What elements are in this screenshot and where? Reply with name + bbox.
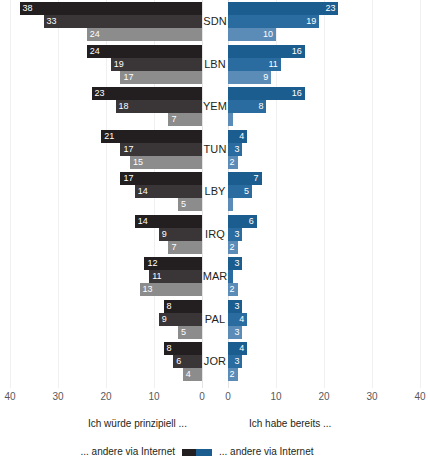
bar-row: 123: [0, 257, 430, 270]
bar-row: 84: [0, 342, 430, 355]
legend-label-right: ... andere via Internet: [219, 446, 314, 458]
bar-value-label: 23: [325, 2, 335, 15]
bar-left: 4: [183, 368, 202, 381]
bar-row: 83: [0, 300, 430, 313]
legend-heading-right: Ich habe bereits ...: [249, 418, 331, 429]
bar-right: 5: [228, 185, 252, 198]
bar-row: 63JOR: [0, 355, 430, 368]
bar-right: 1: [228, 270, 233, 283]
bar-value-label: 16: [292, 45, 302, 58]
bar-value-label: 7: [171, 241, 176, 254]
bar-left: 19: [111, 58, 202, 71]
bar-value-label: 12: [147, 257, 157, 270]
bar-row: 145LBY: [0, 185, 430, 198]
bar-value-label: 2: [230, 156, 235, 169]
country-label-pal: PAL: [202, 313, 228, 326]
bar-value-label: 4: [239, 313, 244, 326]
bar-row: 3823: [0, 2, 430, 15]
bar-right: 3: [228, 355, 242, 368]
bar-value-label: 17: [123, 71, 133, 84]
bar-right: 9: [228, 71, 271, 84]
bar-right: 11: [228, 58, 281, 71]
country-label-yem: YEM: [202, 100, 228, 113]
axis-tick-label: 10: [270, 390, 281, 404]
bar-value-label: 9: [263, 71, 268, 84]
bar-left: 14: [135, 215, 202, 228]
plot-area: 38233319SDN241024161911LBN1792316188YEM7…: [0, 0, 430, 388]
bar-value-label: 2: [230, 368, 235, 381]
bar-value-label: 6: [176, 355, 181, 368]
bar-left: 33: [44, 15, 202, 28]
bar-value-label: 9: [162, 228, 167, 241]
bar-row: 214: [0, 130, 430, 143]
bar-left: 17: [120, 71, 202, 84]
axis-tick-label: 30: [52, 390, 63, 404]
axis-tick-label: 0: [199, 390, 205, 404]
bar-value-label: 17: [123, 172, 133, 185]
bar-left: 9: [159, 313, 202, 326]
bar-right: 3: [228, 257, 242, 270]
bar-left: 13: [140, 283, 202, 296]
bar-value-label: 24: [90, 45, 100, 58]
bar-right: 6: [228, 215, 257, 228]
bar-right: 2: [228, 241, 238, 254]
x-axis: 403020100010203040: [0, 390, 430, 406]
bar-value-label: 5: [181, 326, 186, 339]
bar-value-label: 19: [306, 15, 316, 28]
bar-row: 2416: [0, 45, 430, 58]
bar-left: 18: [116, 100, 202, 113]
bar-value-label: 7: [254, 172, 259, 185]
country-group: 24161911LBN179: [0, 45, 430, 84]
country-label-sdn: SDN: [202, 15, 228, 28]
bar-right: 8: [228, 100, 266, 113]
bar-right: 16: [228, 45, 305, 58]
bar-value-label: 38: [23, 2, 33, 15]
country-group: 38233319SDN2410: [0, 2, 430, 41]
bar-value-label: 3: [234, 326, 239, 339]
bar-right: 3: [228, 326, 242, 339]
bar-row: 177: [0, 172, 430, 185]
bar-left: 8: [164, 342, 202, 355]
bar-value-label: 5: [181, 198, 186, 211]
bar-right: 23: [228, 2, 338, 15]
bar-value-label: 8: [167, 300, 172, 313]
bar-value-label: 5: [244, 185, 249, 198]
bar-value-label: 3: [234, 355, 239, 368]
bar-value-label: 3: [234, 143, 239, 156]
bar-right: 4: [228, 313, 247, 326]
bar-left: 14: [135, 185, 202, 198]
bar-value-label: 13: [143, 283, 153, 296]
bar-value-label: 6: [249, 215, 254, 228]
bar-row: 2410: [0, 28, 430, 41]
bar-right: 1: [228, 113, 233, 126]
bar-row: 146: [0, 215, 430, 228]
bar-left: 15: [130, 156, 202, 169]
country-group: 214173TUN152: [0, 130, 430, 169]
bar-row: 51: [0, 198, 430, 211]
bar-left: 17: [120, 172, 202, 185]
bar-row: 132: [0, 283, 430, 296]
bar-value-label: 17: [123, 143, 133, 156]
bar-value-label: 9: [162, 313, 167, 326]
bar-left: 38: [20, 2, 202, 15]
bar-value-label: 21: [104, 130, 114, 143]
bar-left: 24: [87, 28, 202, 41]
country-group: 8394PAL53: [0, 300, 430, 339]
bar-value-label: 16: [292, 87, 302, 100]
bar-value-label: 4: [239, 342, 244, 355]
country-label-lbn: LBN: [202, 58, 228, 71]
bar-left: 21: [101, 130, 202, 143]
country-group: 123111MAR132: [0, 257, 430, 296]
bar-value-label: 24: [90, 28, 100, 41]
legend-heading-left: Ich würde prinzipiell ...: [88, 418, 187, 429]
bar-right: 7: [228, 172, 262, 185]
bar-left: 5: [178, 326, 202, 339]
bar-row: 152: [0, 156, 430, 169]
bar-row: 42: [0, 368, 430, 381]
bar-row: 173TUN: [0, 143, 430, 156]
bar-value-label: 8: [167, 342, 172, 355]
bar-value-label: 18: [119, 100, 129, 113]
bar-right: 3: [228, 228, 242, 241]
country-label-mar: MAR: [202, 270, 228, 283]
country-group: 2316188YEM71: [0, 87, 430, 126]
